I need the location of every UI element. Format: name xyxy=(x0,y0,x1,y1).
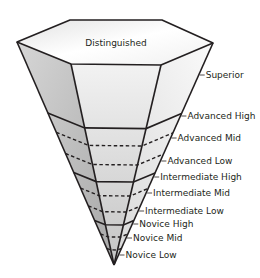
level-label-text: Advanced Low xyxy=(167,156,232,166)
distinguished-label: Distinguished xyxy=(85,38,146,48)
level-label-advanced-high: Advanced High xyxy=(181,111,255,121)
level-label-text: Novice Mid xyxy=(133,233,182,243)
level-label-text: Intermediate High xyxy=(160,172,242,182)
level-label-text: Advanced Mid xyxy=(178,133,241,143)
level-label-intermediate-high: Intermediate High xyxy=(154,172,242,182)
level-label-text: Advanced High xyxy=(187,111,255,121)
level-label-intermediate-low: Intermediate Low xyxy=(139,206,224,216)
level-label-text: Novice High xyxy=(139,219,193,229)
level-label-text: Superior xyxy=(206,70,244,80)
level-label-advanced-mid: Advanced Mid xyxy=(172,133,241,143)
level-label-novice-high: Novice High xyxy=(133,219,193,229)
level-label-text: Intermediate Mid xyxy=(153,188,230,198)
level-label-intermediate-mid: Intermediate Mid xyxy=(147,188,230,198)
proficiency-pyramid-diagram: SuperiorAdvanced HighAdvanced MidAdvance… xyxy=(0,0,260,278)
level-label-novice-low: Novice Low xyxy=(120,250,177,260)
level-label-superior: Superior xyxy=(200,70,244,80)
level-label-text: Intermediate Low xyxy=(145,206,224,216)
level-label-novice-mid: Novice Mid xyxy=(127,233,182,243)
level-label-text: Novice Low xyxy=(126,250,177,260)
level-label-advanced-low: Advanced Low xyxy=(161,156,232,166)
